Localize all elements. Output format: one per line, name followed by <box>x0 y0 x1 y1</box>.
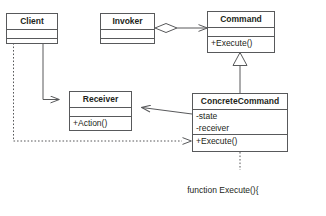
class-client-title: Client <box>7 14 57 30</box>
connector-concretecommand-receiver <box>142 108 192 115</box>
note-text-block: function Execute(){ receiver.Action() } <box>173 174 259 216</box>
class-concretecommand[interactable]: ConcreteCommand -state -receiver +Execut… <box>192 93 288 152</box>
class-invoker-operations <box>101 39 154 48</box>
class-client-attributes <box>7 30 57 39</box>
class-concretecommand-operations: +Execute() <box>193 135 287 147</box>
class-concretecommand-attribute-state: -state <box>193 110 287 122</box>
class-invoker-title: Invoker <box>101 14 154 30</box>
class-concretecommand-title: ConcreteCommand <box>193 94 287 110</box>
class-command-operations: +Execute() <box>208 37 274 49</box>
class-invoker-attributes <box>101 30 154 39</box>
class-receiver-operations: +Action() <box>70 117 131 129</box>
class-command[interactable]: Command +Execute() <box>207 11 275 53</box>
class-receiver-attributes <box>70 108 131 117</box>
uml-diagram-canvas: Client Invoker Command +Execute() Receiv… <box>0 0 326 216</box>
class-command-title: Command <box>208 12 274 28</box>
note-box[interactable]: function Execute(){ receiver.Action() } <box>168 170 320 210</box>
class-client-operations <box>7 39 57 48</box>
note-line-1: function Execute(){ <box>187 185 258 195</box>
connector-client-receiver <box>43 43 59 100</box>
class-receiver-title: Receiver <box>70 92 131 108</box>
class-invoker[interactable]: Invoker <box>100 13 155 44</box>
connector-invoker-command <box>155 24 207 33</box>
class-client[interactable]: Client <box>6 13 58 44</box>
class-concretecommand-attribute-receiver: -receiver <box>193 122 287 135</box>
class-receiver[interactable]: Receiver +Action() <box>69 91 132 131</box>
connector-concretecommand-command <box>233 53 247 94</box>
class-command-attributes <box>208 28 274 37</box>
